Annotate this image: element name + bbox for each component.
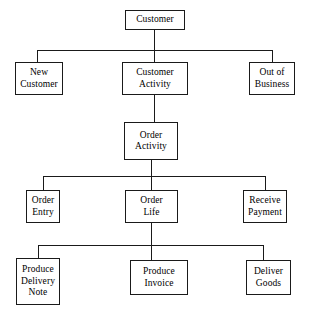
node-label-order_life: Order Life: [138, 195, 165, 218]
node-produce_delivery_note[interactable]: Produce Delivery Note: [16, 258, 60, 305]
connector-line: [272, 50, 273, 62]
hierarchy-diagram: CustomerNew CustomerCustomer ActivityOut…: [0, 0, 311, 319]
node-out_of_business[interactable]: Out of Business: [249, 62, 295, 95]
node-customer[interactable]: Customer: [125, 10, 185, 30]
connector-line: [151, 160, 152, 176]
connector-line: [265, 176, 266, 190]
node-label-produce_delivery_note: Produce Delivery Note: [19, 264, 57, 299]
connector-line: [154, 30, 155, 50]
node-label-new_customer: New Customer: [18, 67, 60, 90]
connector-line: [43, 176, 44, 190]
connector-line: [154, 95, 155, 122]
node-order_entry[interactable]: Order Entry: [26, 190, 60, 223]
connector-line: [151, 176, 152, 190]
connector-line: [154, 50, 155, 62]
node-label-produce_invoice: Produce Invoice: [141, 266, 177, 289]
node-label-deliver_goods: Deliver Goods: [252, 266, 285, 289]
node-produce_invoice[interactable]: Produce Invoice: [130, 260, 188, 295]
node-new_customer[interactable]: New Customer: [15, 62, 63, 95]
connector-line: [43, 176, 265, 177]
node-label-customer: Customer: [134, 14, 176, 26]
node-receive_payment[interactable]: Receive Payment: [243, 190, 287, 223]
node-label-receive_payment: Receive Payment: [246, 195, 284, 218]
node-customer_activity[interactable]: Customer Activity: [122, 62, 188, 95]
node-order_activity[interactable]: Order Activity: [124, 122, 178, 160]
node-label-out_of_business: Out of Business: [253, 67, 292, 90]
node-label-order_entry: Order Entry: [30, 195, 57, 218]
node-label-order_activity: Order Activity: [133, 130, 169, 153]
connector-line: [151, 223, 152, 245]
connector-line: [151, 245, 152, 260]
node-label-customer_activity: Customer Activity: [134, 67, 176, 90]
node-deliver_goods[interactable]: Deliver Goods: [246, 260, 291, 295]
connector-line: [38, 245, 39, 258]
connector-line: [37, 50, 273, 51]
connector-line: [263, 245, 264, 260]
node-order_life[interactable]: Order Life: [125, 190, 178, 223]
connector-line: [37, 50, 38, 62]
